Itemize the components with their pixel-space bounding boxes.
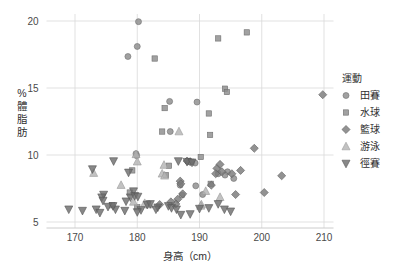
data-point — [224, 89, 229, 94]
scatter-chart: 1701801902002105101520身高（cm）%體脂肪運動田賽水球籃球… — [0, 0, 396, 269]
y-axis-title-char: 脂 — [17, 113, 28, 125]
data-point — [244, 30, 249, 35]
data-point — [121, 207, 129, 215]
data-point — [122, 198, 130, 206]
data-point — [186, 211, 194, 219]
data-point — [237, 166, 245, 174]
y-axis-title-char: 體 — [17, 100, 28, 112]
y-tick-label: 5 — [33, 217, 39, 228]
data-point — [167, 129, 173, 135]
data-point — [216, 36, 221, 41]
data-point — [134, 43, 140, 49]
series-triangle-down — [65, 158, 235, 219]
data-point — [78, 207, 86, 215]
data-point — [110, 158, 118, 166]
legend-marker-square[interactable] — [343, 110, 348, 115]
data-point — [117, 181, 125, 189]
data-point — [278, 172, 286, 180]
data-point — [198, 154, 203, 159]
y-axis-title: %體脂肪 — [17, 87, 28, 138]
data-point — [227, 208, 235, 216]
data-point — [207, 132, 212, 137]
legend: 運動田賽水球籃球游泳徑賽 — [342, 72, 380, 169]
legend-marker-triangle-up[interactable] — [342, 142, 350, 150]
legend-marker-triangle-down[interactable] — [342, 160, 350, 168]
legend-label[interactable]: 徑賽 — [360, 157, 380, 169]
y-tick-label: 10 — [27, 150, 39, 161]
series-diamond — [156, 91, 327, 209]
data-point — [96, 209, 104, 217]
data-point — [174, 158, 182, 166]
legend-label[interactable]: 水球 — [360, 106, 380, 118]
y-axis-title-char: % — [17, 87, 26, 99]
data-point — [162, 105, 167, 110]
x-tick-label: 180 — [129, 232, 146, 243]
legend-marker-circle[interactable] — [343, 93, 349, 99]
gridlines — [47, 14, 334, 228]
x-tick-label: 210 — [316, 232, 333, 243]
data-point — [205, 205, 213, 213]
x-tick-labels: 170180190200210 — [67, 232, 333, 243]
legend-label[interactable]: 游泳 — [360, 140, 380, 152]
legend-label[interactable]: 田賽 — [360, 89, 380, 101]
y-tick-label: 15 — [27, 83, 39, 94]
legend-label[interactable]: 籃球 — [360, 123, 380, 135]
data-point — [220, 206, 228, 214]
data-point — [319, 91, 327, 99]
y-axis-title-char: 肪 — [17, 126, 28, 138]
data-point — [177, 211, 185, 219]
legend-marker-diamond[interactable] — [342, 125, 350, 133]
x-tick-label: 190 — [191, 232, 208, 243]
y-tick-label: 20 — [27, 16, 39, 27]
data-point — [216, 193, 224, 201]
data-point — [135, 19, 141, 25]
legend-title: 運動 — [342, 72, 362, 84]
x-tick-label: 170 — [67, 232, 84, 243]
data-point — [159, 129, 164, 134]
y-tick-labels: 5101520 — [27, 16, 39, 228]
data-point — [175, 127, 183, 135]
plot-canvas: 1701801902002105101520身高（cm）%體脂肪運動田賽水球籃球… — [0, 0, 396, 269]
data-point — [202, 187, 210, 195]
data-point — [125, 54, 131, 60]
data-point — [167, 98, 173, 104]
data-point — [250, 144, 258, 152]
data-point — [232, 190, 240, 198]
x-axis-title: 身高（cm） — [163, 250, 217, 262]
x-tick-label: 200 — [253, 232, 270, 243]
data-point — [194, 99, 200, 105]
data-point — [193, 183, 199, 189]
data-point — [206, 111, 211, 116]
data-point — [65, 206, 73, 214]
data-point — [152, 56, 157, 61]
data-point — [133, 157, 141, 165]
